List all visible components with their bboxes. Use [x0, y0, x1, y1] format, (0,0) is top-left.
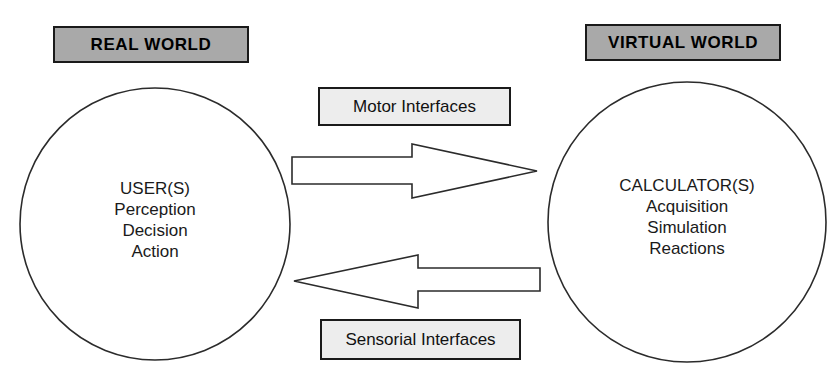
connector-label-sensorial-interfaces-text: Sensorial Interfaces	[345, 330, 495, 350]
user-title: USER(S)	[55, 178, 255, 199]
connector-label-motor-interfaces-text: Motor Interfaces	[353, 97, 476, 117]
calculator-line-1: Acquisition	[577, 196, 797, 217]
calculator-line-3: Reactions	[577, 238, 797, 259]
connector-label-sensorial-interfaces: Sensorial Interfaces	[320, 319, 521, 360]
calculator-circle-text: CALCULATOR(S) Acquisition Simulation Rea…	[577, 175, 797, 259]
header-real-world: REAL WORLD	[53, 26, 249, 63]
user-line-2: Decision	[55, 220, 255, 241]
header-virtual-world: VIRTUAL WORLD	[585, 24, 781, 61]
calculator-line-2: Simulation	[577, 217, 797, 238]
sensorial-arrow-left	[294, 255, 540, 308]
user-line-1: Perception	[55, 199, 255, 220]
user-circle-text: USER(S) Perception Decision Action	[55, 178, 255, 262]
user-line-3: Action	[55, 241, 255, 262]
header-real-world-label: REAL WORLD	[91, 35, 212, 55]
header-virtual-world-label: VIRTUAL WORLD	[608, 33, 758, 53]
diagram-canvas: REAL WORLD VIRTUAL WORLD Motor Interface…	[0, 0, 837, 388]
calculator-title: CALCULATOR(S)	[577, 175, 797, 196]
motor-arrow-right	[292, 144, 537, 198]
connector-label-motor-interfaces: Motor Interfaces	[318, 87, 511, 126]
